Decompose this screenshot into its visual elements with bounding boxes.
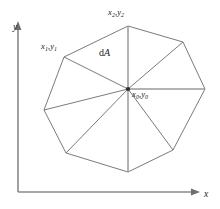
centroid-point: [126, 87, 130, 91]
x-axis-label: x: [204, 190, 208, 200]
diagram-svg: [0, 0, 220, 209]
triangle-spokes: [44, 26, 205, 172]
spoke-upper-right: [128, 42, 183, 89]
y-axis-label: y: [13, 23, 17, 33]
figure-canvas: x2,y2 x1,y1 x0,y0 dA y x: [0, 0, 220, 209]
spoke-upper-left: [64, 57, 128, 89]
area-element-label: dA: [99, 48, 110, 58]
vertex-0-label: x0,y0: [132, 90, 148, 99]
x-axis: [18, 189, 200, 196]
spoke-lower-left: [66, 89, 128, 153]
vertex-2-label: x2,y2: [108, 8, 124, 17]
vertex-1-label: x1,y1: [41, 42, 57, 51]
y-axis: [15, 21, 22, 192]
polygon-outline: [44, 26, 205, 172]
spoke-left: [44, 89, 128, 110]
x-axis-arrowhead: [191, 189, 200, 196]
